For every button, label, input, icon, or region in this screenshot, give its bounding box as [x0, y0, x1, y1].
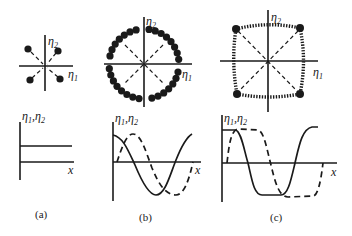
eta1-axis-label: η1 — [313, 65, 323, 81]
panel-a: η2 η1 η1,η2 x (a) — [19, 34, 78, 221]
phase-diagram-figure: η2 η1 η1,η2 x (a) η2 η1 η1,η2 — [0, 0, 352, 236]
panel-a-profile: η1,η2 x — [20, 109, 74, 180]
eta1-axis-label: η1 — [68, 67, 78, 83]
eta2-sine-curve — [117, 134, 193, 195]
state-dot — [126, 28, 133, 35]
panel-c-phase-plane: η2 η1 — [220, 10, 323, 112]
panel-b-caption: (b) — [139, 211, 152, 224]
profile-x-label: x — [194, 163, 201, 177]
state-dot — [174, 69, 181, 76]
profile-x-label: x — [330, 165, 337, 179]
arrow-dash-ur — [47, 53, 56, 64]
profile-y-label: η1,η2 — [224, 111, 247, 127]
state-dot — [107, 71, 114, 78]
eta2-axis-label: η2 — [48, 34, 58, 50]
panel-c-profile: η1,η2 x — [222, 111, 337, 202]
state-dot — [154, 93, 161, 100]
panel-b: η2 η1 η1,η2 x (b) — [104, 14, 201, 224]
profile-y-label: η1,η2 — [115, 111, 138, 127]
arrow-dash-ul — [31, 52, 43, 64]
state-dot — [174, 49, 181, 56]
corner-dot — [233, 90, 241, 98]
panel-c: η2 η1 η1,η2 x (c) — [220, 10, 337, 224]
state-dot — [135, 95, 142, 102]
state-dot — [148, 95, 155, 102]
panel-c-caption: (c) — [270, 211, 283, 224]
state-dot — [106, 65, 113, 72]
arrow-dash-ll — [32, 68, 43, 78]
profile-x-label: x — [67, 163, 74, 177]
panel-a-caption: (a) — [35, 208, 48, 221]
eta2-axis-label: η2 — [146, 14, 156, 30]
state-dot — [175, 56, 182, 63]
corner-dot — [296, 24, 304, 32]
state-dot — [26, 76, 33, 83]
corner-dot — [232, 25, 240, 33]
state-dot — [106, 52, 113, 59]
state-dot — [24, 45, 31, 52]
panel-b-phase-plane: η2 η1 — [104, 14, 192, 107]
panel-a-phase-plane: η2 η1 — [19, 34, 78, 91]
arrow-dash-lr — [47, 68, 58, 77]
profile-y-label: η1,η2 — [22, 109, 45, 125]
state-dot — [56, 75, 63, 82]
state-dot — [133, 26, 140, 33]
eta1-axis-label: η1 — [182, 67, 192, 83]
panel-b-profile: η1,η2 x — [113, 111, 201, 201]
corner-dot — [296, 90, 304, 98]
eta2-axis-label: η2 — [271, 10, 281, 26]
